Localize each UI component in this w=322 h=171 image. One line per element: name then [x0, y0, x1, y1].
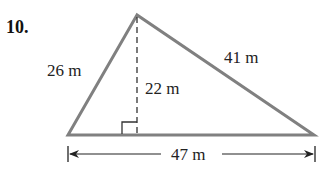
- right-angle-marker: [122, 122, 137, 134]
- problem-number: 10.: [6, 17, 29, 37]
- height-label: 22 m: [145, 79, 179, 98]
- base-label: 47 m: [171, 145, 205, 164]
- triangle-figure: 10. 26 m 41 m 22 m 47 m: [0, 0, 322, 171]
- left-side-label: 26 m: [47, 61, 81, 80]
- triangle: [68, 15, 314, 135]
- diagram: 10. 26 m 41 m 22 m 47 m: [0, 0, 322, 171]
- right-side-label: 41 m: [224, 48, 258, 67]
